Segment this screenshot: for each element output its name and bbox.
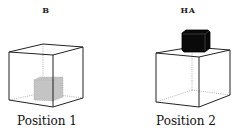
gray-cube-inside (34, 77, 63, 101)
panel-position-2: HA Position 2 (120, 0, 240, 136)
black-cube-on-top (182, 30, 210, 52)
panel-position-1: B Position 1 (0, 0, 120, 136)
panel-1-caption: Position 1 (0, 114, 107, 128)
panel-2-caption: Position 2 (126, 114, 240, 128)
